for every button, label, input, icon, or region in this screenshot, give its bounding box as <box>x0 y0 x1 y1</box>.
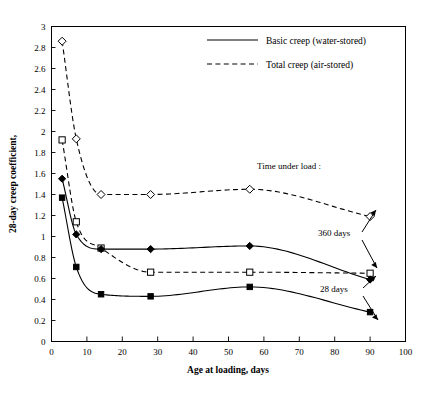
data-series-layer <box>58 37 374 315</box>
x-tick-label: 30 <box>153 347 163 357</box>
x-axis-ticks: 0102030405060708090100 <box>49 337 413 357</box>
y-tick-label: 0.4 <box>34 295 46 305</box>
y-tick-label: 0.2 <box>34 316 45 326</box>
y-tick-label: 2.6 <box>34 64 46 74</box>
data-point-open-diamond <box>58 37 66 45</box>
data-point-open-diamond <box>147 191 155 199</box>
legend-label-basic-creep: Basic creep (water-stored) <box>266 36 366 47</box>
series <box>62 198 370 312</box>
annotations: Time under load : 360 days 28 days <box>257 161 378 320</box>
y-tick-label: 0 <box>41 337 46 347</box>
x-tick-label: 100 <box>399 347 413 357</box>
y-tick-label: 3 <box>41 22 46 32</box>
y-tick-label: 0.8 <box>34 253 46 263</box>
y-tick-label: 2.4 <box>34 85 46 95</box>
x-tick-label: 10 <box>82 347 92 357</box>
creep-coefficient-chart: 00.20.40.60.811.21.41.61.822.22.42.62.83… <box>0 0 432 396</box>
data-point-filled-square <box>98 292 103 297</box>
x-tick-label: 70 <box>295 347 305 357</box>
chart-svg: 00.20.40.60.811.21.41.61.822.22.42.62.83… <box>0 0 432 396</box>
annotation-28-days: 28 days <box>320 284 348 294</box>
y-tick-label: 2 <box>41 127 46 137</box>
data-point-open-square <box>247 269 253 275</box>
x-tick-label: 50 <box>224 347 234 357</box>
legend-label-total-creep: Total creep (air-stored) <box>266 60 353 71</box>
data-point-filled-diamond <box>73 231 80 238</box>
x-tick-label: 80 <box>330 347 340 357</box>
data-point-filled-diamond <box>147 246 154 253</box>
data-point-open-square <box>59 137 65 143</box>
series-line <box>62 198 370 312</box>
data-point-open-diamond <box>246 185 254 193</box>
data-point-filled-square <box>148 294 153 299</box>
data-point-open-square <box>73 219 79 225</box>
data-point-open-square <box>148 269 154 275</box>
x-axis-title: Age at loading, days <box>187 365 269 375</box>
x-tick-label: 90 <box>366 347 376 357</box>
series <box>62 140 370 273</box>
x-tick-label: 40 <box>189 347 199 357</box>
data-point-filled-square <box>247 284 252 289</box>
data-point-filled-square <box>59 195 64 200</box>
x-tick-label: 20 <box>118 347 128 357</box>
x-tick-label: 0 <box>49 347 54 357</box>
y-tick-label: 1.4 <box>34 190 46 200</box>
y-axis-ticks: 00.20.40.60.811.21.41.61.822.22.42.62.83 <box>34 22 55 347</box>
data-point-filled-square <box>74 264 79 269</box>
y-tick-label: 1.2 <box>34 211 45 221</box>
annotation-time-under-load: Time under load : <box>257 161 321 171</box>
series-line <box>62 140 370 273</box>
y-tick-label: 1.6 <box>34 169 46 179</box>
y-tick-label: 2.2 <box>34 106 45 116</box>
data-point-open-diamond <box>72 135 80 143</box>
y-tick-label: 2.8 <box>34 43 46 53</box>
y-tick-label: 1 <box>41 232 46 242</box>
data-point-open-diamond <box>97 191 105 199</box>
y-tick-label: 0.6 <box>34 274 46 284</box>
annotation-360-days: 360 days <box>318 228 351 238</box>
data-point-filled-diamond <box>246 242 253 249</box>
legend: Basic creep (water-stored) Total creep (… <box>207 36 366 71</box>
y-tick-label: 1.8 <box>34 148 46 158</box>
data-point-filled-diamond <box>59 175 66 182</box>
y-axis-title: 28-day creep coefficient, <box>8 134 18 233</box>
x-tick-label: 60 <box>259 347 269 357</box>
